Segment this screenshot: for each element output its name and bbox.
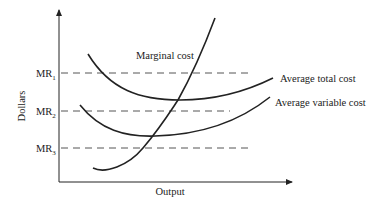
diagram-canvas: Marginal cost Average total cost Average…	[0, 0, 376, 203]
mr3-label: MR3	[36, 143, 56, 157]
mr1-label: MR1	[36, 68, 56, 82]
cost-curves-diagram: Marginal cost Average total cost Average…	[0, 0, 376, 203]
average-variable-cost-curve	[80, 97, 270, 136]
marginal-cost-curve	[93, 18, 215, 170]
x-axis-label: Output	[155, 186, 184, 197]
marginal-cost-label: Marginal cost	[136, 50, 194, 61]
y-axis-label: Dollars	[16, 91, 27, 122]
average-variable-cost-label: Average variable cost	[275, 97, 366, 108]
average-total-cost-label: Average total cost	[280, 73, 356, 84]
mr2-label: MR2	[36, 106, 56, 120]
